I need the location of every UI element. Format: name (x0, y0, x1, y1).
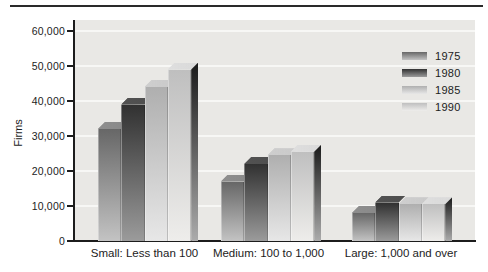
legend-label-1990: 1990 (435, 101, 461, 113)
bar-1980 (375, 203, 398, 242)
bar-1990 (291, 152, 314, 241)
legend-swatch-1975 (402, 52, 427, 60)
legend-label-1975: 1975 (435, 50, 461, 62)
y-axis-tick-label: 0 (25, 235, 65, 247)
legend: 1975 1980 1985 1990 (402, 47, 461, 116)
bar-side-face-1990 (191, 63, 198, 242)
top-rule (10, 5, 483, 7)
legend-item-1985: 1985 (402, 81, 461, 98)
y-axis-tick (67, 65, 73, 67)
category-label-medium: Medium: 100 to 1,000 (213, 247, 324, 259)
y-axis-tick (67, 100, 73, 102)
category-label-small: Small: Less than 100 (91, 247, 198, 259)
category-label-large: Large: 1,000 and over (345, 247, 458, 259)
y-axis-tick-label: 50,000 (25, 60, 65, 72)
legend-item-1975: 1975 (402, 47, 461, 64)
bar-1975 (352, 213, 375, 241)
bar-side-face-1990 (314, 145, 321, 241)
y-axis-tick (67, 240, 73, 242)
y-axis-tick-label: 30,000 (25, 130, 65, 142)
bar-1985 (145, 87, 168, 241)
gridline (75, 30, 475, 32)
legend-swatch-1980 (402, 69, 427, 77)
y-axis-tick (67, 205, 73, 207)
bar-1975 (98, 129, 121, 241)
y-axis-title: Firms (12, 98, 26, 168)
bar-1980 (244, 164, 267, 241)
y-axis-tick (67, 170, 73, 172)
y-axis-tick (67, 135, 73, 137)
bar-1985 (399, 204, 422, 241)
legend-item-1990: 1990 (402, 99, 461, 116)
y-axis-tick-label: 40,000 (25, 95, 65, 107)
chart-canvas: Firms 010,00020,00030,00040,00050,00060,… (0, 0, 488, 272)
legend-swatch-1985 (402, 86, 427, 94)
y-axis-tick-label: 10,000 (25, 200, 65, 212)
bar-side-face-1990 (445, 197, 452, 241)
y-axis-tick-label: 20,000 (25, 165, 65, 177)
bar-1990 (168, 70, 191, 242)
y-axis-tick-label: 60,000 (25, 25, 65, 37)
legend-item-1980: 1980 (402, 64, 461, 81)
y-axis-line (73, 20, 75, 241)
bar-1980 (121, 105, 144, 242)
legend-label-1980: 1980 (435, 67, 461, 79)
y-axis-tick (67, 30, 73, 32)
bar-1985 (268, 155, 291, 241)
bar-1975 (221, 182, 244, 242)
legend-label-1985: 1985 (435, 84, 461, 96)
bar-1990 (422, 204, 445, 241)
legend-swatch-1990 (402, 103, 427, 111)
